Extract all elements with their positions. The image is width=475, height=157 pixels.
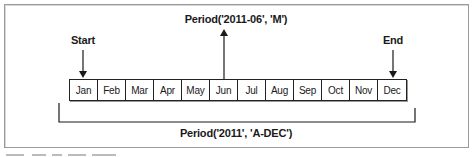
clipped-caption [6,152,306,157]
month-cell-mar: Mar [126,80,154,100]
month-cell-nov: Nov [350,80,378,100]
month-cell-feb: Feb [98,80,126,100]
start-arrow-icon [79,50,87,78]
annual-period-label: Period('2011', 'A-DEC') [180,127,292,139]
month-cell-jun: Jun [210,80,238,100]
end-arrow-icon [389,50,397,78]
month-cell-dec: Dec [378,80,406,100]
month-row: Jan Feb Mar Apr May Jun Jul Aug Sep Oct … [69,79,407,101]
month-cell-jan: Jan [70,80,98,100]
month-cell-jul: Jul [238,80,266,100]
up-arrow-icon [220,29,228,79]
month-cell-apr: Apr [154,80,182,100]
month-cell-sep: Sep [294,80,322,100]
month-cell-aug: Aug [266,80,294,100]
month-cell-may: May [182,80,210,100]
month-cell-oct: Oct [322,80,350,100]
year-bracket [59,103,415,122]
